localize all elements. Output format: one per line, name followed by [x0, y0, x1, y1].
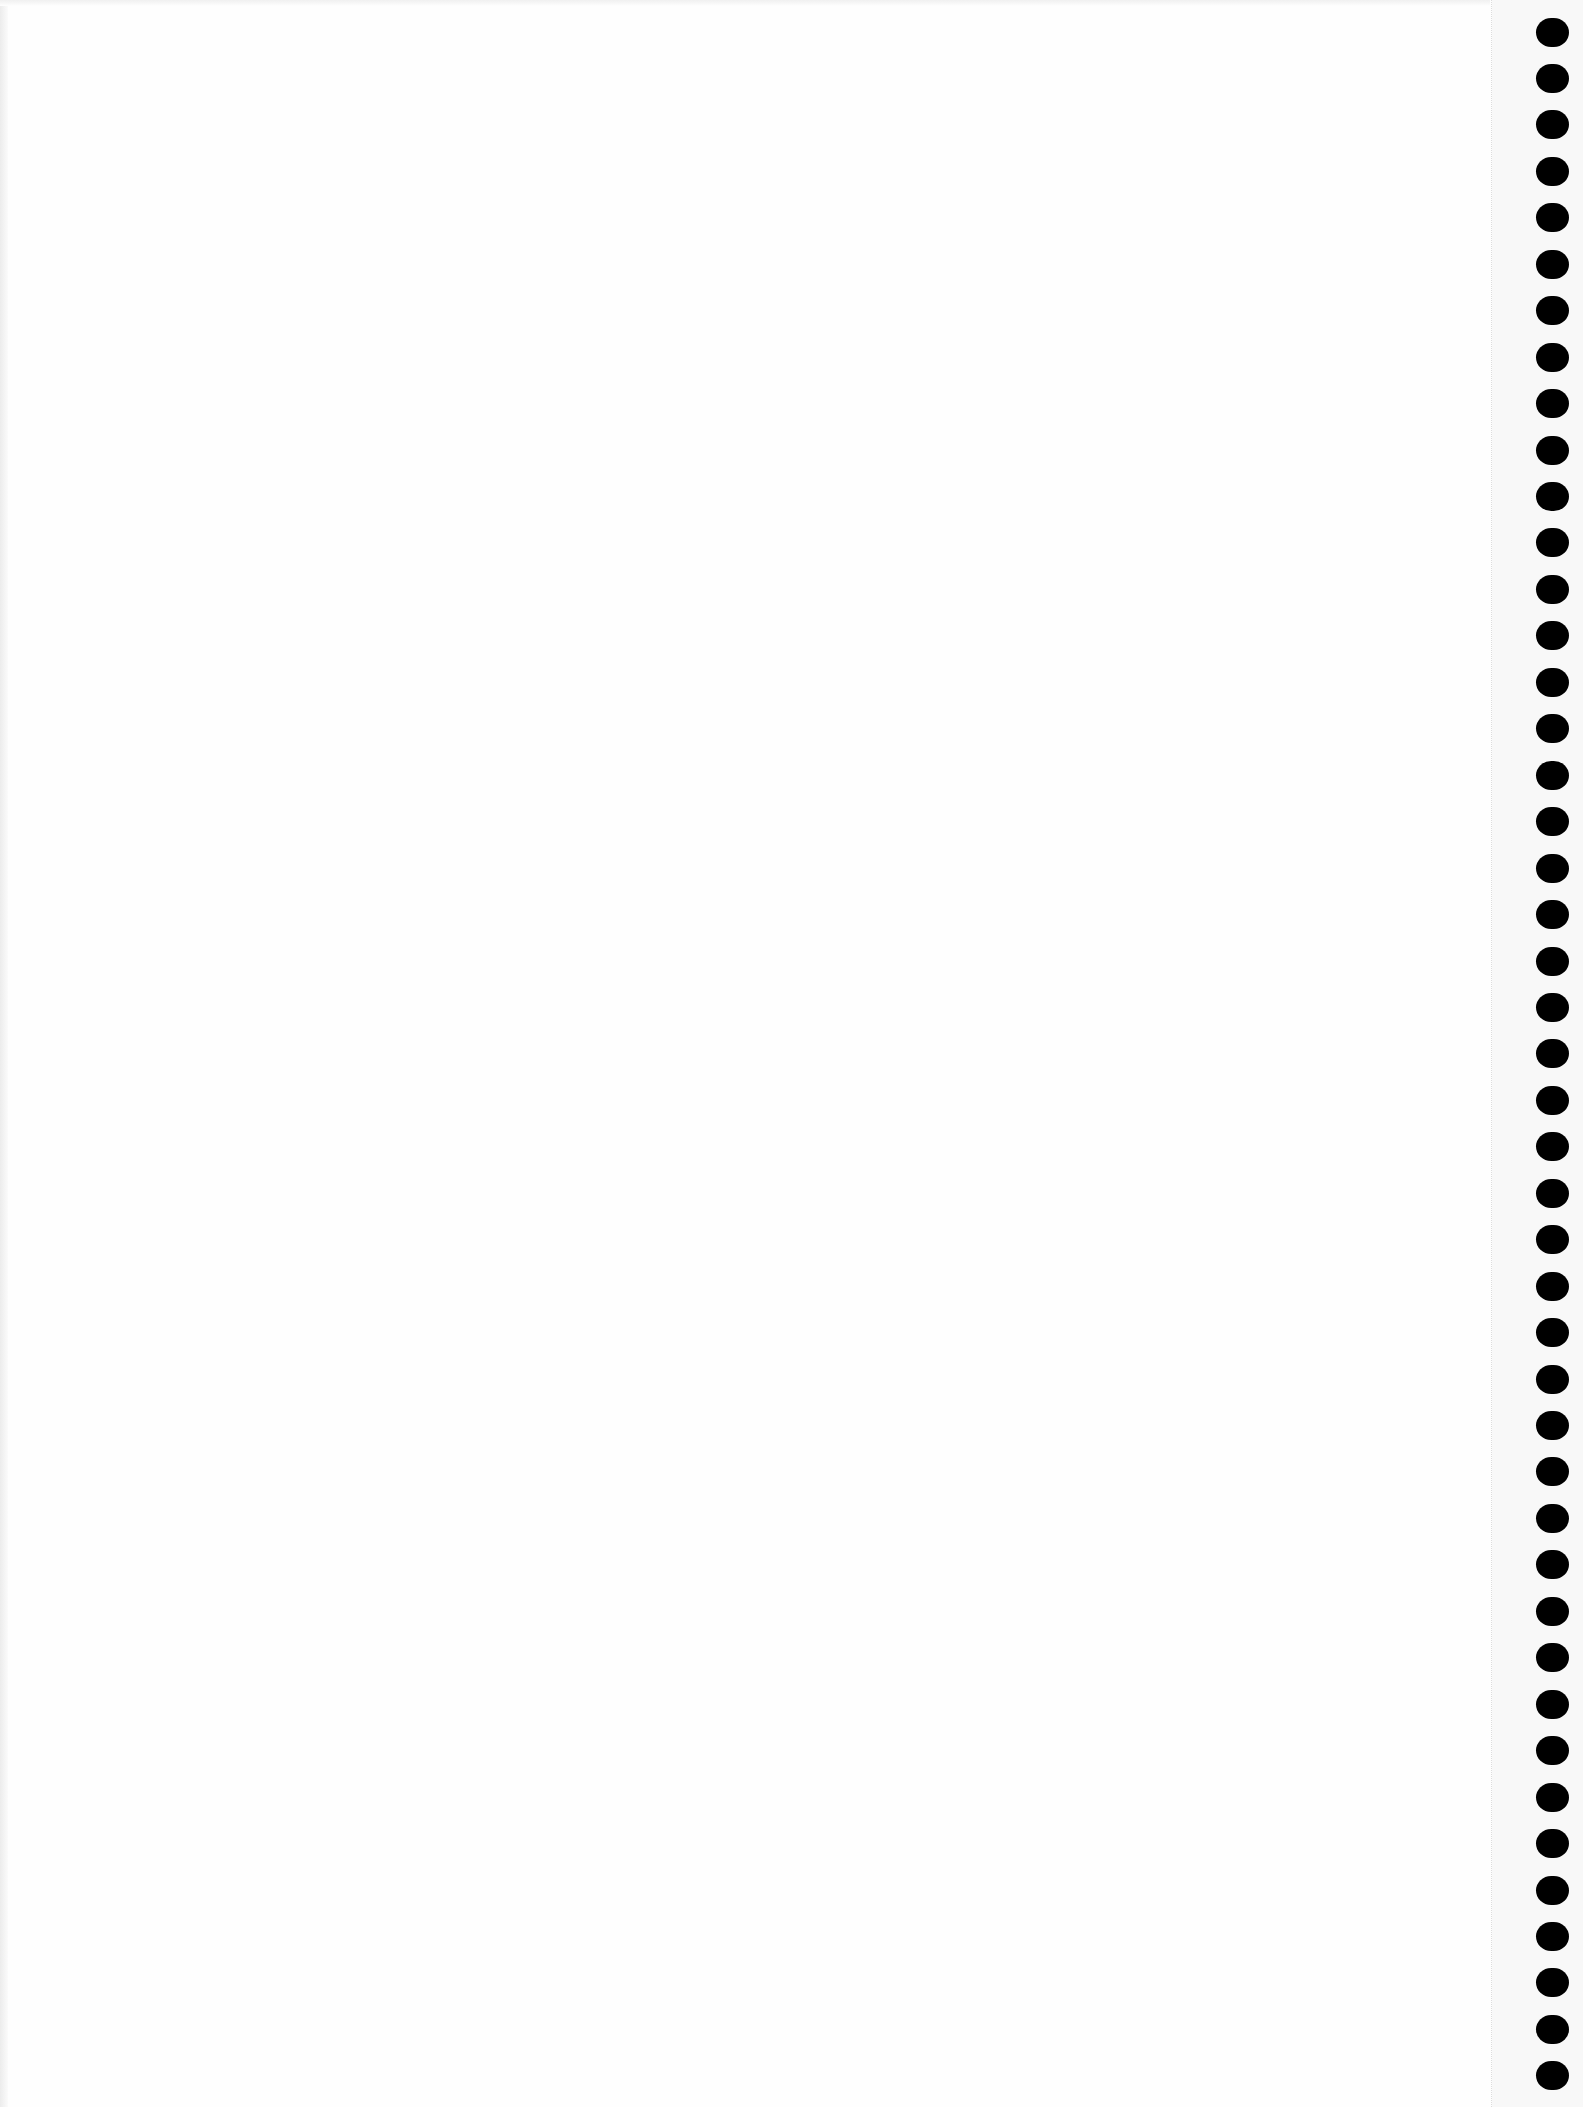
binder-hole-icon	[1536, 1365, 1569, 1394]
binder-hole-icon	[1536, 900, 1569, 929]
binder-hole-icon	[1536, 389, 1569, 418]
binder-hole-icon	[1536, 947, 1569, 976]
binder-hole-icon	[1536, 343, 1569, 372]
binder-hole-icon	[1536, 1504, 1569, 1533]
binder-hole-icon	[1536, 296, 1569, 325]
binder-hole-icon	[1536, 1411, 1569, 1440]
binder-hole-icon	[1536, 761, 1569, 790]
binder-hole-icon	[1536, 1597, 1569, 1626]
binder-hole-icon	[1536, 2061, 1569, 2090]
binder-hole-icon	[1536, 436, 1569, 465]
binder-hole-icon	[1536, 1829, 1569, 1858]
binder-hole-icon	[1536, 1643, 1569, 1672]
binder-hole-icon	[1536, 1968, 1569, 1997]
binder-hole-icon	[1536, 1876, 1569, 1905]
binder-hole-icon	[1536, 1783, 1569, 1812]
binder-hole-column	[0, 0, 1583, 2107]
binder-hole-icon	[1536, 482, 1569, 511]
binder-hole-icon	[1536, 1272, 1569, 1301]
binder-hole-icon	[1536, 203, 1569, 232]
blank-page	[0, 0, 1583, 2107]
binder-hole-icon	[1536, 250, 1569, 279]
binder-hole-icon	[1536, 1179, 1569, 1208]
binder-hole-icon	[1536, 1736, 1569, 1765]
binder-hole-icon	[1536, 1132, 1569, 1161]
binder-hole-icon	[1536, 18, 1569, 47]
binder-hole-icon	[1536, 993, 1569, 1022]
binder-hole-icon	[1536, 807, 1569, 836]
binder-hole-icon	[1536, 1690, 1569, 1719]
binder-hole-icon	[1536, 854, 1569, 883]
binder-hole-icon	[1536, 1086, 1569, 1115]
binder-hole-icon	[1536, 1457, 1569, 1486]
binder-hole-icon	[1536, 668, 1569, 697]
binder-hole-icon	[1536, 1922, 1569, 1951]
binder-hole-icon	[1536, 1039, 1569, 1068]
binder-hole-icon	[1536, 2015, 1569, 2044]
binder-hole-icon	[1536, 575, 1569, 604]
binder-hole-icon	[1536, 157, 1569, 186]
binder-hole-icon	[1536, 110, 1569, 139]
binder-hole-icon	[1536, 714, 1569, 743]
binder-hole-icon	[1536, 1318, 1569, 1347]
binder-hole-icon	[1536, 64, 1569, 93]
binder-hole-icon	[1536, 1225, 1569, 1254]
binder-hole-icon	[1536, 1550, 1569, 1579]
binder-hole-icon	[1536, 621, 1569, 650]
binder-hole-icon	[1536, 528, 1569, 557]
